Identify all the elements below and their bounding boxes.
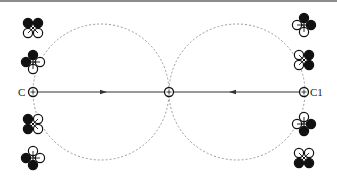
arrow-left-icon <box>229 90 236 94</box>
rotor-l <box>21 153 30 162</box>
drone-right-3-icon <box>292 112 315 135</box>
label-c1: C1 <box>310 87 323 98</box>
rotor-r <box>306 119 315 128</box>
drone-right-4-icon <box>294 148 313 167</box>
rotor-t <box>28 50 37 59</box>
rotor-br <box>304 158 313 167</box>
drone-left-2-icon <box>21 50 44 73</box>
rotor-tl <box>23 114 32 123</box>
rotor-tr <box>33 18 42 27</box>
rotor-tl <box>23 18 32 27</box>
rotor-bl <box>23 124 32 133</box>
rotor-br <box>304 60 313 69</box>
point-center <box>165 88 174 97</box>
rotor-b <box>28 160 37 169</box>
rotor-tr <box>304 50 313 59</box>
drone-left-3-icon <box>23 114 42 133</box>
point-c <box>29 88 38 97</box>
point-c1 <box>300 88 309 97</box>
drone-left-4-icon <box>21 146 44 169</box>
rotor-bl <box>294 158 303 167</box>
rotor-l <box>21 57 30 66</box>
rotor-r <box>306 20 315 29</box>
label-c: C <box>18 87 25 98</box>
drone-left-1-icon <box>23 18 42 37</box>
rotor-t <box>299 13 308 22</box>
drone-right-1-icon <box>292 13 315 36</box>
arrow-right-icon <box>100 90 107 94</box>
rotor-b <box>299 126 308 135</box>
formation-diagram <box>0 0 337 182</box>
